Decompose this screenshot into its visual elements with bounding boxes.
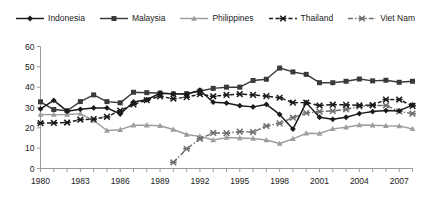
x-axis-tick-label: 2001 [310, 176, 329, 186]
legend-marker-square-icon [99, 13, 129, 24]
series-viet-nam [170, 103, 416, 166]
chart-legend: IndonesiaMalaysiaPhilippinesThailandViet… [0, 8, 430, 28]
legend-label: Malaysia [132, 13, 166, 24]
y-axis-tick-label: 10 [25, 143, 35, 153]
legend-label: Thailand [301, 13, 334, 24]
y-axis-tick-label: 50 [25, 62, 35, 72]
legend-item-indonesia[interactable]: Indonesia [15, 13, 85, 24]
x-axis-tick-label: 1986 [111, 176, 130, 186]
x-axis-tick-label: 2004 [350, 176, 369, 186]
legend-marker-triangle-icon [179, 13, 209, 24]
x-axis-tick-label: 1992 [190, 176, 209, 186]
legend-item-philippines[interactable]: Philippines [179, 13, 253, 24]
y-axis-tick-label: 40 [25, 82, 35, 92]
legend-item-thailand[interactable]: Thailand [268, 13, 334, 24]
y-axis-tick-label: 20 [25, 123, 35, 133]
legend-marker-cross-icon [347, 13, 377, 24]
plot-area: 0102030405060198019831986198919921995199… [0, 32, 430, 208]
legend-label: Philippines [212, 13, 253, 24]
x-axis-tick-label: 1998 [270, 176, 289, 186]
legend-marker-cross-icon [268, 13, 298, 24]
x-axis-tick-label: 2007 [390, 176, 409, 186]
x-axis-tick-label: 1983 [71, 176, 90, 186]
x-axis-tick-label: 1980 [31, 176, 50, 186]
chart-figure: IndonesiaMalaysiaPhilippinesThailandViet… [0, 0, 430, 208]
y-axis-tick-label: 30 [25, 103, 35, 113]
legend-item-malaysia[interactable]: Malaysia [99, 13, 166, 24]
legend-item-viet-nam[interactable]: Viet Nam [347, 13, 415, 24]
x-axis-tick-label: 1995 [230, 176, 249, 186]
plot-svg: 0102030405060198019831986198919921995199… [0, 32, 430, 208]
x-axis-tick-label: 1989 [151, 176, 170, 186]
legend-marker-diamond-icon [15, 13, 45, 24]
y-axis-tick-label: 60 [25, 42, 35, 52]
legend-label: Indonesia [48, 13, 85, 24]
legend-label: Viet Nam [380, 13, 415, 24]
y-axis-tick-label: 0 [30, 164, 35, 174]
